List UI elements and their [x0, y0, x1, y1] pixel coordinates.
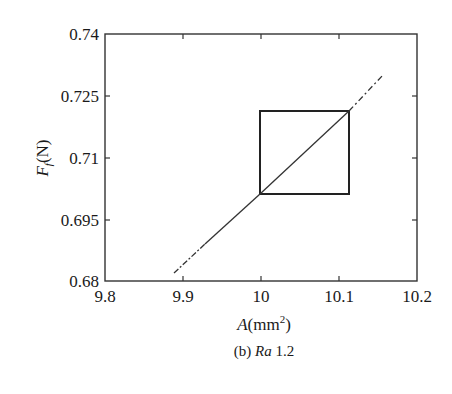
ytick-label: 0.74 [69, 25, 99, 44]
xtick-label: 9.9 [172, 287, 193, 306]
ytick-label: 0.725 [61, 87, 99, 106]
xtick-label: 9.8 [94, 287, 115, 306]
y-tick-labels: 0.74 0.725 0.71 0.695 0.68 [61, 25, 100, 291]
xtick-label: 10.1 [324, 287, 354, 306]
x-tick-labels: 9.8 9.9 10 10.1 10.2 [94, 287, 432, 306]
fit-line [174, 75, 383, 273]
figure-caption: (b) Ra 1.2 [234, 343, 294, 360]
ytick-label: 0.695 [61, 211, 99, 230]
chart: 0.74 0.725 0.71 0.695 0.68 9.8 9.9 10 10… [0, 0, 452, 394]
ytick-label: 0.71 [69, 149, 99, 168]
xtick-label: 10.2 [402, 287, 432, 306]
y-axis-label: Ff(N) [33, 139, 54, 177]
x-axis-label: A(mm2) [236, 313, 291, 334]
xtick-label: 10 [253, 287, 270, 306]
